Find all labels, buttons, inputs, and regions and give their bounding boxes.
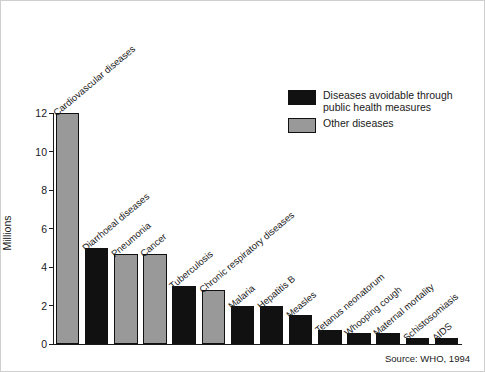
y-tick-label: 8 xyxy=(41,184,47,196)
bar-cancer xyxy=(143,254,166,344)
legend-label-other-line1: Other diseases xyxy=(323,118,394,130)
chart-legend: Diseases avoidable through public health… xyxy=(288,90,478,138)
bar-malaria xyxy=(231,306,254,345)
bar-chronic-respiratory-diseases xyxy=(202,290,225,344)
y-tick-label: 4 xyxy=(41,261,47,273)
bar-measles xyxy=(289,315,312,344)
y-tick-label: 12 xyxy=(35,107,47,119)
legend-item-avoidable: Diseases avoidable through public health… xyxy=(288,90,478,113)
legend-swatch-avoidable-icon xyxy=(288,90,316,105)
source-note: Source: WHO, 1994 xyxy=(385,353,470,364)
legend-swatch-other-icon xyxy=(288,118,316,133)
y-tick-0: 0 xyxy=(1,338,53,350)
legend-label-other: Other diseases xyxy=(323,118,394,130)
y-tick-12: 12 xyxy=(1,107,53,119)
bar-diarrhoeal-diseases xyxy=(85,248,108,344)
legend-label-avoidable-line1: Diseases avoidable through xyxy=(323,90,453,102)
y-tick-label: 10 xyxy=(35,146,47,158)
x-label-cardiovascular-diseases: Cardiovascular diseases xyxy=(51,43,137,118)
y-axis-label: Millions xyxy=(1,215,13,250)
y-tick-8: 8 xyxy=(1,184,53,196)
legend-label-avoidable: Diseases avoidable through public health… xyxy=(323,90,453,113)
y-tick-label: 6 xyxy=(41,223,47,235)
bar-cardiovascular-diseases xyxy=(56,113,79,344)
y-tick-4: 4 xyxy=(1,261,53,273)
y-tick-label: 2 xyxy=(41,300,47,312)
y-axis-line xyxy=(53,113,54,345)
y-tick-10: 10 xyxy=(1,146,53,158)
x-axis-line xyxy=(53,344,462,345)
y-tick-2: 2 xyxy=(1,300,53,312)
bar-hepatitis-b xyxy=(260,306,283,345)
bar-pneumonia xyxy=(114,254,137,344)
legend-label-avoidable-line2: public health measures xyxy=(323,102,453,114)
y-tick-label: 0 xyxy=(41,338,47,350)
chart-figure: 024681012 Millions Cardiovascular diseas… xyxy=(0,0,485,372)
legend-item-other: Other diseases xyxy=(288,118,478,133)
bar-tuberculosis xyxy=(172,286,195,344)
